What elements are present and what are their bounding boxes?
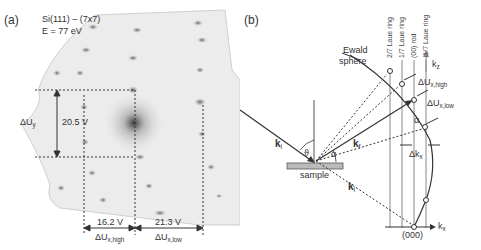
alpha-sample-label: α <box>331 150 336 159</box>
panel-b-label: (b) <box>244 14 259 26</box>
specular-spot <box>104 93 164 153</box>
ewald-label-1: Ewald <box>343 46 368 55</box>
energy-label: E = 77 eV <box>42 27 82 36</box>
ewald-label-2: sphere <box>339 57 367 66</box>
dux-high-label: ΔUx,high <box>418 78 447 88</box>
ring-label-minus-1-7: -1/7 Laue ring <box>422 15 429 58</box>
kf-arrow <box>405 100 413 106</box>
rod-label-00: (00) rod <box>410 33 417 58</box>
leed-pattern-graphic <box>0 0 240 250</box>
delta-uy-symbol: ΔUy <box>20 118 36 128</box>
kx-label: kx <box>438 222 446 232</box>
origin-label: (000) <box>402 231 423 240</box>
dkx-label: Δkx <box>409 150 423 160</box>
ring-label-2-7: 2/7 Laue ring <box>386 17 393 58</box>
ki-reflected-label: ki <box>348 182 355 193</box>
panel-a-label: (a) <box>4 14 19 26</box>
ring-label-1-7: 1/7 Laue ring <box>398 17 405 58</box>
sample-plate <box>287 163 343 169</box>
delta-ux-low-symbol: ΔUx,low <box>155 233 182 243</box>
panel-b-ewald-diagram: (b) Ewald sphere 2/7 Laue ring 1/7 Laue … <box>240 0 481 250</box>
delta-ux-high-value: 16.2 V <box>97 218 123 227</box>
panel-a-leed-pattern: (a) Si(111) – (7x7) E = 77 eV ΔUy 20.5 V… <box>0 0 240 250</box>
ewald-diagram-graphic <box>240 0 481 250</box>
kz-label: kz <box>432 60 440 70</box>
delta-ux-high-symbol: ΔUx,high <box>95 233 124 243</box>
sample-title: Si(111) – (7x7) <box>42 15 100 24</box>
kx-arrow <box>430 224 436 230</box>
alpha-label: α <box>414 116 419 125</box>
sample-label: sample <box>300 171 329 180</box>
delta-uy-value: 20.5 V <box>62 118 88 127</box>
theta-label: ϑ <box>304 149 309 158</box>
ki-label: ki <box>275 139 282 150</box>
kf-label: kf <box>353 139 361 150</box>
delta-ux-low-value: 21.3 V <box>155 218 181 227</box>
dux-low-label: ΔUx,low <box>427 99 454 109</box>
